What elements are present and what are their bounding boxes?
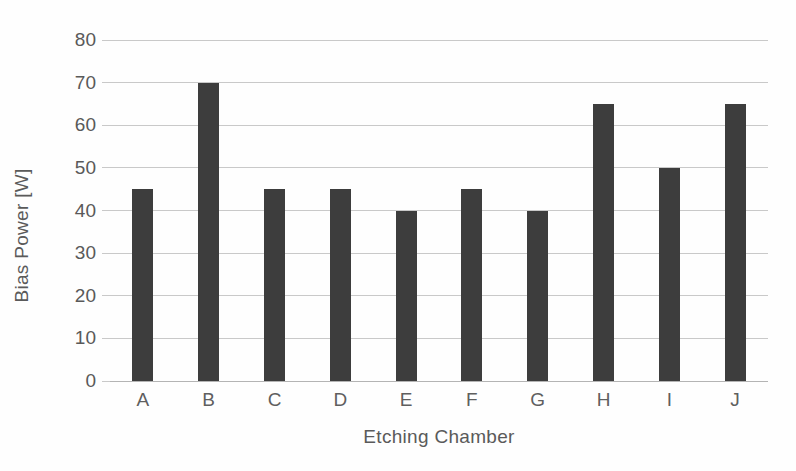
- x-tick-label: H: [597, 389, 611, 411]
- y-tick-mark: [102, 253, 110, 254]
- bar: [659, 168, 680, 381]
- gridline: [110, 40, 768, 41]
- y-tick-mark: [102, 82, 110, 83]
- x-tick-label: D: [333, 389, 347, 411]
- y-tick-mark: [102, 210, 110, 211]
- x-tick-label: G: [530, 389, 545, 411]
- bar: [725, 104, 746, 381]
- x-tick-label: F: [466, 389, 478, 411]
- y-axis-title: Bias Power [W]: [0, 0, 44, 471]
- bar: [396, 211, 417, 382]
- y-tick-label: 40: [75, 200, 96, 222]
- y-tick-label: 10: [75, 327, 96, 349]
- x-tick-label: I: [667, 389, 672, 411]
- bar: [330, 189, 351, 381]
- bar: [132, 189, 153, 381]
- y-tick-label: 80: [75, 29, 96, 51]
- y-tick-mark: [102, 381, 110, 382]
- x-tick-label: A: [137, 389, 150, 411]
- y-tick-label: 30: [75, 242, 96, 264]
- y-tick-mark: [102, 40, 110, 41]
- bar-chart: Bias Power [W] 01020304050607080ABCDEFGH…: [0, 0, 796, 471]
- y-tick-mark: [102, 167, 110, 168]
- y-tick-label: 60: [75, 114, 96, 136]
- y-tick-label: 50: [75, 157, 96, 179]
- bar: [264, 189, 285, 381]
- bar: [593, 104, 614, 381]
- y-tick-mark: [102, 125, 110, 126]
- bar: [198, 83, 219, 381]
- y-tick-mark: [102, 295, 110, 296]
- x-tick-label: B: [202, 389, 215, 411]
- y-tick-label: 0: [85, 370, 96, 392]
- y-tick-label: 70: [75, 72, 96, 94]
- x-tick-label: C: [268, 389, 282, 411]
- plot-area: 01020304050607080ABCDEFGHIJ: [110, 40, 768, 381]
- y-tick-mark: [102, 338, 110, 339]
- x-axis-title: Etching Chamber: [110, 426, 768, 448]
- x-tick-label: J: [730, 389, 740, 411]
- x-tick-label: E: [400, 389, 413, 411]
- bar: [461, 189, 482, 381]
- bar: [527, 211, 548, 382]
- y-tick-label: 20: [75, 285, 96, 307]
